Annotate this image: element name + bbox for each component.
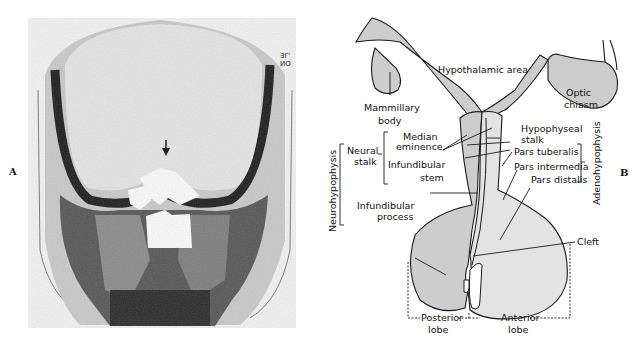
label-neural: Neural [347,145,378,156]
label-pars-distalis: Pars distalis [531,174,587,185]
label-cleft: Cleft [577,236,599,247]
label-infundibular-process-2: process [377,211,414,222]
film-marker-bottom: ИO [280,60,291,68]
radiograph-panel: ƎΓ' ИO [0,0,320,344]
label-mammillary-body: body [378,115,402,126]
label-anterior-lobe: lobe [508,324,528,335]
label-pars-tuberalis: Pars tuberalis [514,146,579,157]
film-marker-top: ƎΓ' [280,52,290,60]
label-neural-stalk: stalk [354,156,377,167]
panel-label-b: B [620,167,628,178]
label-posterior: Posterior [421,312,463,323]
label-neurohypophysis: Neurohypophysis [327,150,338,232]
pituitary-diagram-panel: Hypothalamic area Mammillary body Optic … [320,0,643,344]
anterior-lobe-shape [468,112,567,320]
label-infundibular-stem-2: stem [420,172,444,183]
label-hypophyseal: Hypophyseal [521,123,583,134]
label-optic-chiasm: chiasm [564,99,598,110]
label-posterior-lobe: lobe [428,324,448,335]
pituitary-diagram: Hypothalamic area Mammillary body Optic … [320,0,643,344]
label-mammillary: Mammillary [364,102,420,113]
label-anterior: Anterior [501,312,539,323]
label-adenohypophysis: Adenohypophysis [591,121,602,205]
label-median-eminence: eminence [396,141,443,152]
skull-radiograph-image: ƎΓ' ИO [0,0,320,344]
label-pars-intermedia: Pars intermedia [514,161,589,172]
label-optic: Optic [566,87,591,98]
label-hypothalamic-area: Hypothalamic area [438,64,528,75]
cleft-shape [469,263,482,309]
panel-label-a: A [9,166,17,177]
label-infundibular-stem-1: Infundibular [388,159,445,170]
mammillary-body-shape [372,48,401,94]
label-infundibular-process-1: Infundibular [357,200,414,211]
label-hypophyseal-stalk: stalk [521,134,544,145]
